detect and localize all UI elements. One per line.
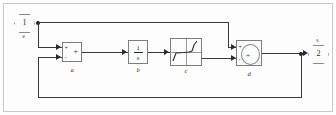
block-transfer-function-b[interactable]: 1 s (128, 40, 148, 64)
signal-arrow-icon-nonlinearity-c-in (164, 49, 169, 55)
saturation-curve-icon (171, 39, 201, 65)
wire-top-down-to-sum-d (228, 22, 229, 47)
wire-input-down-to-sum-a (38, 22, 39, 47)
block-sum-d[interactable]: + + - (236, 40, 262, 66)
block-transfer-function-b-expression: 1 s (129, 41, 147, 63)
block-sum-d-glyph: + (246, 52, 250, 60)
wire-feedback-down (301, 53, 302, 97)
block-diagram-canvas: 1 e + - + a 1 s b c (0, 0, 336, 115)
signal-arrow-icon-sum-a-minus (56, 54, 61, 60)
block-sum-a-glyph: + (73, 47, 78, 56)
block-transfer-function-b-numerator: 1 (136, 44, 139, 51)
block-sum-d-sign-minus: - (239, 56, 241, 62)
signal-arrow-icon-tf-b-in (122, 49, 127, 55)
inport-1-number: 1 (15, 15, 34, 30)
block-sum-a[interactable]: + - + (62, 42, 82, 62)
outport-2-number: 2 (309, 46, 328, 61)
block-transfer-function-b-name: b (128, 66, 148, 73)
wire-input-to-top (38, 22, 228, 23)
block-sum-a-sign-plus: + (65, 45, 68, 51)
wire-feedback-up-to-sum-a (38, 57, 39, 97)
sum-circle-icon: + (241, 44, 260, 65)
block-sum-d-sign-plus: + (239, 44, 242, 50)
wire-feedback-left (38, 97, 302, 98)
signal-arrow-icon-sum-a-plus (56, 44, 61, 50)
block-sum-a-name: a (62, 66, 82, 73)
block-sum-d-name: d (236, 70, 262, 77)
signal-arrow-icon-outport (303, 50, 308, 56)
block-nonlinearity-c-name: c (170, 67, 202, 74)
block-nonlinearity-c[interactable] (170, 38, 202, 66)
block-transfer-function-b-denominator: s (137, 54, 140, 61)
block-sum-a-sign-minus: - (65, 54, 67, 60)
inport-1-label: e (14, 33, 33, 39)
fraction-bar-icon (134, 52, 143, 53)
outport-2-label: s (308, 37, 327, 43)
